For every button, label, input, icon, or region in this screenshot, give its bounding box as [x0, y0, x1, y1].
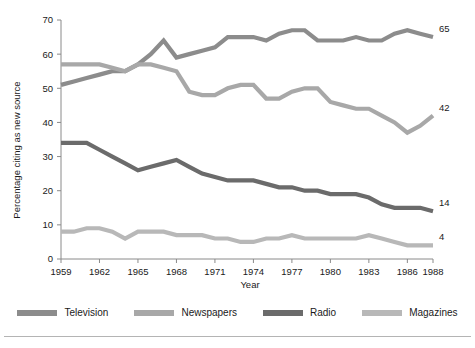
series-end-label-newspapers: 42	[439, 102, 450, 113]
series-end-labels: 6542144	[439, 23, 450, 242]
x-axis-title: Year	[240, 279, 259, 290]
legend-item-magazines[interactable]: Magazines	[362, 308, 457, 318]
x-tick-label: 1962	[89, 266, 110, 277]
legend-swatch-icon	[17, 310, 57, 316]
x-tick-label: 1988	[422, 266, 443, 277]
series-line-television	[61, 30, 433, 85]
chart-page: 010203040506070 195919621965196819711974…	[0, 0, 475, 348]
y-tick-label: 60	[42, 49, 53, 60]
legend-label: Television	[64, 308, 108, 318]
x-tick-label: 1986	[397, 266, 418, 277]
series-line-radio	[61, 143, 433, 211]
y-tick-label: 20	[42, 185, 53, 196]
chart-plot-area: 010203040506070 195919621965196819711974…	[0, 0, 475, 290]
x-tick-label: 1980	[320, 266, 341, 277]
y-tick-label: 70	[42, 14, 53, 25]
x-tick-label: 1974	[243, 266, 264, 277]
legend-item-radio[interactable]: Radio	[263, 308, 336, 318]
legend-swatch-icon	[134, 310, 174, 316]
series-end-label-radio: 14	[439, 197, 450, 208]
series-end-label-magazines: 4	[439, 231, 444, 242]
x-tick-label: 1965	[127, 266, 148, 277]
series-line-magazines	[61, 228, 433, 245]
x-tick-label: 1971	[204, 266, 225, 277]
line-chart-svg: 010203040506070 195919621965196819711974…	[0, 0, 475, 290]
x-tick-label: 1977	[281, 266, 302, 277]
x-tick-label: 1959	[50, 266, 71, 277]
legend-item-newspapers[interactable]: Newspapers	[134, 308, 237, 318]
legend-label: Newspapers	[181, 308, 237, 318]
y-tick-label: 50	[42, 83, 53, 94]
legend-label: Magazines	[409, 308, 457, 318]
series-line-newspapers	[61, 64, 433, 132]
x-axis: 1959196219651968197119741977198019831986…	[50, 259, 443, 277]
chart-legend: TelevisionNewspapersRadioMagazines	[0, 303, 475, 323]
series-end-label-television: 65	[439, 23, 450, 34]
x-tick-label: 1968	[166, 266, 187, 277]
y-tick-label: 10	[42, 219, 53, 230]
legend-item-television[interactable]: Television	[17, 308, 108, 318]
legend-label: Radio	[310, 308, 336, 318]
legend-swatch-icon	[263, 310, 303, 316]
y-tick-label: 30	[42, 151, 53, 162]
y-axis-title: Percentage citing as new source	[11, 81, 22, 218]
y-axis: 010203040506070	[42, 14, 61, 264]
legend-swatch-icon	[362, 310, 402, 316]
x-tick-label: 1983	[358, 266, 379, 277]
series-lines	[61, 30, 433, 245]
y-tick-label: 40	[42, 117, 53, 128]
footer-divider	[4, 336, 471, 337]
y-tick-label: 0	[48, 253, 53, 264]
